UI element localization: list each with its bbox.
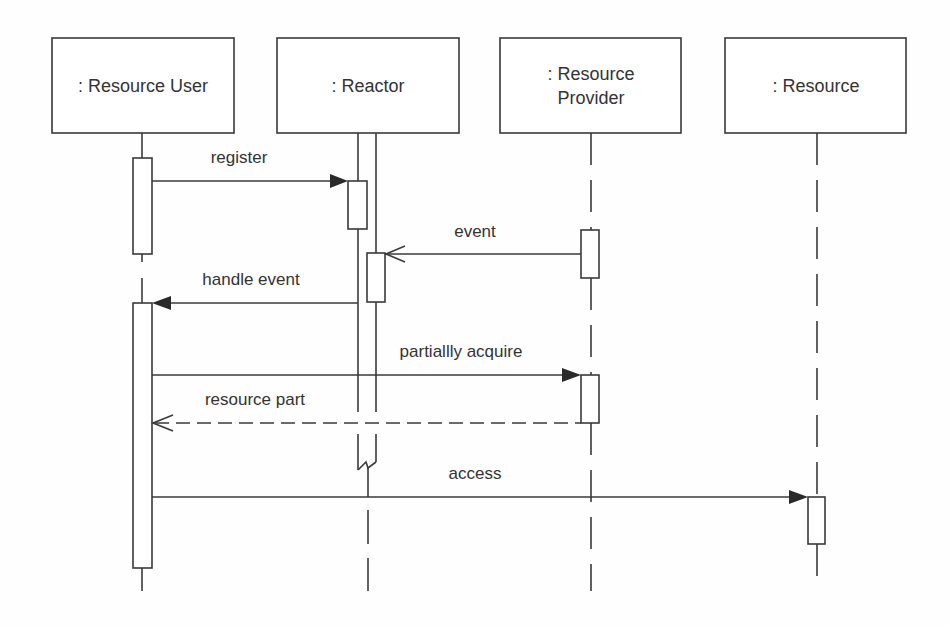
participant-label: : Resource	[772, 76, 859, 96]
message-label: register	[211, 148, 268, 167]
message-label: event	[454, 222, 496, 241]
message-register: register	[152, 148, 348, 188]
participant-label: : Resource User	[78, 76, 208, 96]
activation-reactor-1	[348, 181, 367, 229]
message-label: access	[449, 464, 502, 483]
filled-arrowhead-icon	[152, 296, 171, 310]
message-event: event	[385, 222, 581, 262]
participant-label-line-2: Provider	[557, 88, 624, 108]
participant-resource-user: : Resource User	[52, 38, 234, 133]
activation-provider-1	[581, 230, 599, 278]
activation-resource-1	[808, 497, 825, 544]
participant-resource-provider: : Resource Provider	[500, 38, 681, 133]
activation-provider-2	[581, 375, 599, 423]
participant-reactor: : Reactor	[277, 38, 459, 133]
message-access: access	[152, 464, 808, 504]
message-resource-part: resource part	[153, 390, 581, 431]
participant-label-line-1: : Resource	[547, 64, 634, 84]
participant-resource: : Resource	[725, 38, 906, 133]
filled-arrowhead-icon	[789, 490, 808, 504]
diagram-svg: : Resource User : Reactor : Resource Pro…	[0, 0, 950, 626]
message-handle-event: handle event	[152, 270, 358, 310]
sequence-diagram: : Resource User : Reactor : Resource Pro…	[0, 0, 950, 626]
filled-arrowhead-icon	[330, 174, 348, 188]
participant-box	[500, 38, 681, 133]
activation-user-1	[133, 158, 152, 254]
participant-label: : Reactor	[331, 76, 404, 96]
message-label: resource part	[205, 390, 305, 409]
message-partially-acquire: partiallly acquire	[152, 342, 581, 382]
activation-reactor-2	[367, 253, 385, 302]
activation-user-2	[133, 303, 152, 568]
lifeline-break-zigzag	[358, 462, 376, 470]
filled-arrowhead-icon	[562, 368, 581, 382]
message-label: partiallly acquire	[400, 342, 523, 361]
message-label: handle event	[202, 270, 300, 289]
